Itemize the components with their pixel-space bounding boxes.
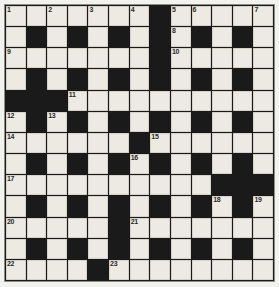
grid-letter-cell[interactable] (253, 112, 273, 132)
grid-letter-cell[interactable] (27, 6, 47, 26)
grid-letter-cell[interactable] (192, 48, 212, 68)
grid-letter-cell[interactable] (6, 196, 26, 216)
grid-letter-cell[interactable] (88, 133, 108, 153)
grid-letter-cell[interactable] (47, 239, 67, 259)
grid-letter-cell[interactable] (47, 48, 67, 68)
grid-letter-cell[interactable] (150, 175, 170, 195)
grid-letter-cell[interactable]: 1 (6, 6, 26, 26)
grid-letter-cell[interactable] (150, 91, 170, 111)
grid-letter-cell[interactable] (27, 133, 47, 153)
grid-letter-cell[interactable] (68, 48, 88, 68)
grid-letter-cell[interactable] (212, 27, 232, 47)
grid-letter-cell[interactable] (47, 175, 67, 195)
grid-letter-cell[interactable]: 22 (6, 260, 26, 280)
grid-letter-cell[interactable] (253, 48, 273, 68)
grid-letter-cell[interactable] (47, 154, 67, 174)
grid-letter-cell[interactable] (88, 218, 108, 238)
grid-letter-cell[interactable] (171, 239, 191, 259)
grid-letter-cell[interactable] (47, 260, 67, 280)
grid-letter-cell[interactable] (212, 260, 232, 280)
grid-letter-cell[interactable] (47, 27, 67, 47)
grid-letter-cell[interactable] (6, 154, 26, 174)
grid-letter-cell[interactable] (192, 260, 212, 280)
grid-letter-cell[interactable] (88, 112, 108, 132)
grid-letter-cell[interactable] (233, 48, 253, 68)
grid-letter-cell[interactable] (109, 48, 129, 68)
grid-letter-cell[interactable] (88, 27, 108, 47)
grid-letter-cell[interactable]: 16 (130, 154, 150, 174)
grid-letter-cell[interactable] (130, 27, 150, 47)
grid-letter-cell[interactable] (171, 196, 191, 216)
grid-letter-cell[interactable] (130, 91, 150, 111)
grid-letter-cell[interactable] (130, 69, 150, 89)
grid-letter-cell[interactable] (171, 154, 191, 174)
grid-letter-cell[interactable] (6, 27, 26, 47)
grid-letter-cell[interactable] (253, 133, 273, 153)
grid-letter-cell[interactable] (27, 218, 47, 238)
grid-letter-cell[interactable]: 5 (171, 6, 191, 26)
grid-letter-cell[interactable] (88, 154, 108, 174)
grid-letter-cell[interactable] (253, 260, 273, 280)
grid-letter-cell[interactable] (253, 154, 273, 174)
grid-letter-cell[interactable] (150, 260, 170, 280)
grid-letter-cell[interactable] (253, 91, 273, 111)
grid-letter-cell[interactable] (130, 239, 150, 259)
grid-letter-cell[interactable] (192, 175, 212, 195)
grid-letter-cell[interactable] (171, 112, 191, 132)
grid-letter-cell[interactable] (150, 218, 170, 238)
grid-letter-cell[interactable] (171, 218, 191, 238)
grid-letter-cell[interactable]: 8 (171, 27, 191, 47)
grid-letter-cell[interactable] (233, 91, 253, 111)
grid-letter-cell[interactable] (47, 218, 67, 238)
grid-letter-cell[interactable] (47, 133, 67, 153)
grid-letter-cell[interactable]: 19 (253, 196, 273, 216)
grid-letter-cell[interactable] (109, 175, 129, 195)
grid-letter-cell[interactable] (233, 6, 253, 26)
grid-letter-cell[interactable] (212, 69, 232, 89)
grid-letter-cell[interactable] (171, 175, 191, 195)
grid-letter-cell[interactable] (88, 239, 108, 259)
grid-letter-cell[interactable] (88, 48, 108, 68)
grid-letter-cell[interactable] (233, 218, 253, 238)
grid-letter-cell[interactable] (171, 91, 191, 111)
grid-letter-cell[interactable] (253, 27, 273, 47)
grid-letter-cell[interactable] (109, 91, 129, 111)
grid-letter-cell[interactable] (27, 175, 47, 195)
grid-letter-cell[interactable] (192, 218, 212, 238)
grid-letter-cell[interactable] (27, 48, 47, 68)
grid-letter-cell[interactable] (212, 218, 232, 238)
grid-letter-cell[interactable] (6, 69, 26, 89)
grid-letter-cell[interactable] (253, 218, 273, 238)
grid-letter-cell[interactable] (253, 239, 273, 259)
grid-letter-cell[interactable] (171, 260, 191, 280)
grid-letter-cell[interactable]: 23 (109, 260, 129, 280)
grid-letter-cell[interactable] (130, 112, 150, 132)
grid-letter-cell[interactable]: 15 (150, 133, 170, 153)
grid-letter-cell[interactable]: 11 (68, 91, 88, 111)
grid-letter-cell[interactable]: 13 (47, 112, 67, 132)
grid-letter-cell[interactable] (88, 196, 108, 216)
grid-letter-cell[interactable] (212, 48, 232, 68)
grid-letter-cell[interactable] (212, 6, 232, 26)
crossword-grid[interactable]: 1234567891011121314151617181920212223 (6, 6, 273, 280)
grid-letter-cell[interactable] (68, 6, 88, 26)
grid-letter-cell[interactable] (109, 133, 129, 153)
grid-letter-cell[interactable] (212, 133, 232, 153)
grid-letter-cell[interactable] (130, 175, 150, 195)
grid-letter-cell[interactable]: 3 (88, 6, 108, 26)
grid-letter-cell[interactable]: 21 (130, 218, 150, 238)
grid-letter-cell[interactable] (68, 260, 88, 280)
grid-letter-cell[interactable] (47, 196, 67, 216)
grid-letter-cell[interactable] (27, 260, 47, 280)
grid-letter-cell[interactable] (88, 175, 108, 195)
grid-letter-cell[interactable] (233, 260, 253, 280)
grid-letter-cell[interactable]: 6 (192, 6, 212, 26)
grid-letter-cell[interactable] (171, 133, 191, 153)
grid-letter-cell[interactable] (253, 69, 273, 89)
grid-letter-cell[interactable] (130, 196, 150, 216)
grid-letter-cell[interactable]: 7 (253, 6, 273, 26)
grid-letter-cell[interactable]: 20 (6, 218, 26, 238)
grid-letter-cell[interactable]: 18 (212, 196, 232, 216)
grid-letter-cell[interactable] (88, 91, 108, 111)
grid-letter-cell[interactable]: 14 (6, 133, 26, 153)
